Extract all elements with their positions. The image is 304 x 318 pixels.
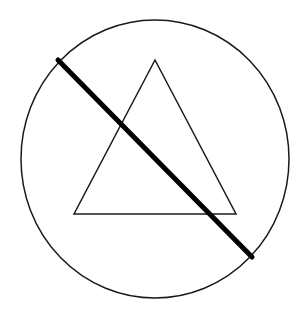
inner-triangle — [74, 60, 236, 214]
diagram-canvas — [0, 0, 304, 318]
diagonal-strike-line — [58, 60, 252, 257]
diagram-svg — [0, 0, 304, 318]
